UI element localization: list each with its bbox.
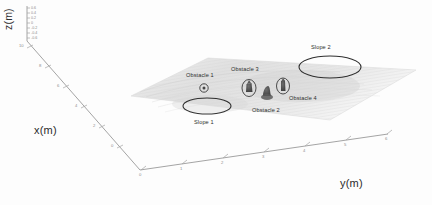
y-tick-0: 0 <box>139 172 142 177</box>
z-tick-5: -0.4 <box>31 31 37 35</box>
obstacle-4-label: Obstacle 4 <box>289 95 317 101</box>
obstacle-1-label: Obstacle 1 <box>186 72 214 78</box>
z-axis-title: z(m) <box>2 8 14 30</box>
plot-canvas: 0.6 0.4 0.2 0 -0.2 -0.4 -0.6 10 8 6 4 2 … <box>0 0 432 205</box>
y-tick-6: 6 <box>385 136 388 141</box>
3d-terrain-plot: 0.6 0.4 0.2 0 -0.2 -0.4 -0.6 10 8 6 4 2 … <box>0 0 432 205</box>
z-tick-2: 0.2 <box>31 16 36 20</box>
y-axis-title: y(m) <box>340 177 363 189</box>
y-tick-4: 4 <box>303 148 306 153</box>
y-tick-2: 2 <box>221 160 224 165</box>
z-axis-ticks: 0.6 0.4 0.2 0 -0.2 -0.4 -0.6 <box>27 6 37 40</box>
z-tick-6: -0.6 <box>31 36 37 40</box>
x-tick-3: 4 <box>75 103 78 108</box>
x-tick-4: 2 <box>93 123 96 128</box>
slope-1-label: Slope 1 <box>194 119 214 125</box>
z-tick-1: 0.4 <box>31 11 36 15</box>
obstacle-3-label: Obstacle 3 <box>231 66 259 72</box>
z-tick-4: -0.2 <box>31 26 37 30</box>
obstacle-2-label: Obstacle 2 <box>252 107 280 113</box>
y-tick-1: 1 <box>180 166 183 171</box>
z-tick-0: 0.6 <box>31 6 36 10</box>
x-tick-0: 10 <box>19 43 24 48</box>
x-tick-5: 0 <box>111 143 114 148</box>
y-tick-5: 5 <box>344 142 347 147</box>
y-axis-ticks: 0 1 2 3 4 5 6 <box>139 130 392 177</box>
slope-2-label: Slope 2 <box>311 44 331 50</box>
x-axis-title: x(m) <box>34 124 57 136</box>
x-tick-2: 6 <box>57 83 60 88</box>
z-tick-3: 0 <box>31 21 33 25</box>
x-tick-1: 8 <box>39 63 42 68</box>
y-tick-3: 3 <box>262 154 265 159</box>
